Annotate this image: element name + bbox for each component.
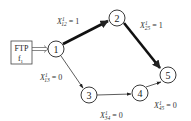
edge-4-5 xyxy=(146,82,161,87)
node-4-label: 4 xyxy=(138,88,143,99)
flow-network-diagram: FTP f1 X112= 1 X125= 1 X113= 0 X134= 0 X… xyxy=(0,0,191,121)
ftp-label: FTP xyxy=(15,44,29,53)
edge-label-4-5: X145= 0 xyxy=(153,100,177,111)
node-2-label: 2 xyxy=(115,13,120,24)
node-2: 2 xyxy=(109,10,125,26)
node-1: 1 xyxy=(48,41,64,57)
node-4: 4 xyxy=(132,85,148,101)
edge-label-2-5: X125= 1 xyxy=(139,20,163,31)
ftp-source-box: FTP f1 xyxy=(11,41,32,64)
node-3: 3 xyxy=(81,87,97,103)
edge-1-3 xyxy=(61,56,83,88)
node-5: 5 xyxy=(160,67,176,83)
edge-label-1-2: X112= 1 xyxy=(56,16,79,27)
edge-label-3-4: X134= 0 xyxy=(99,110,123,121)
source-double-arrow xyxy=(32,46,48,53)
node-3-label: 3 xyxy=(87,90,92,101)
node-1-label: 1 xyxy=(54,44,59,55)
edge-3-4 xyxy=(97,94,131,95)
node-5-label: 5 xyxy=(166,70,171,81)
edge-label-1-3: X113= 0 xyxy=(39,72,62,83)
